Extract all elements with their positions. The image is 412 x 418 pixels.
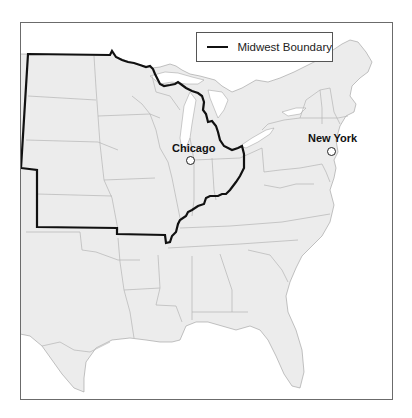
city-label-new-york: New York (308, 132, 357, 144)
legend-line-swatch (207, 46, 228, 49)
legend-label-midwest-boundary: Midwest Boundary (237, 41, 332, 53)
us-map (0, 0, 412, 418)
city-label-chicago: Chicago (172, 142, 215, 154)
map-legend: Midwest Boundary (196, 32, 333, 62)
city-marker-chicago (186, 156, 195, 165)
city-marker-new-york (327, 147, 336, 156)
